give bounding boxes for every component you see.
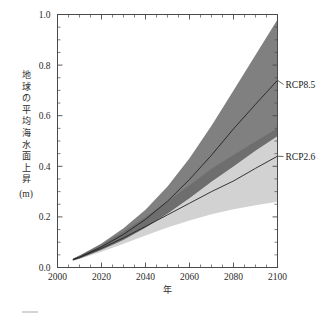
y-axis-title-char: 地 [22, 69, 31, 80]
y-axis-title-char: 水 [22, 139, 31, 150]
x-tick-label: 2080 [224, 272, 243, 282]
caption-rule [22, 311, 38, 313]
sea-level-rise-chart: 200020202040206020802100 0.00.20.40.60.8… [0, 0, 331, 316]
y-axis-title-char: 均 [22, 115, 31, 126]
y-tick-label: 0.4 [39, 162, 51, 172]
y-axis-unit: (m) [19, 189, 33, 200]
y-tick-label: 0.8 [39, 61, 51, 71]
y-axis-title-char: 上 [22, 163, 31, 173]
x-tick-label: 2020 [92, 272, 111, 282]
x-axis-title: 年 [163, 284, 172, 295]
y-axis-title-char: の [22, 93, 31, 103]
y-axis-title-char: 平 [22, 105, 31, 115]
x-tick-label: 2100 [268, 272, 287, 282]
y-axis-title-char: 昇 [22, 174, 31, 184]
y-tick-label: 1.0 [39, 10, 51, 20]
x-tick-label: 2000 [48, 272, 67, 282]
y-tick-label: 0.0 [39, 263, 51, 273]
y-axis-title-char: 球 [22, 81, 31, 92]
series-label-rcp26: RCP2.6 [286, 152, 316, 162]
y-axis-title-char: 面 [22, 151, 31, 161]
y-axis-title-char: 海 [22, 127, 31, 138]
y-tick-label: 0.6 [39, 111, 51, 121]
figure-container: 200020202040206020802100 0.00.20.40.60.8… [0, 0, 331, 316]
y-tick-label: 0.2 [39, 212, 51, 222]
x-tick-label: 2060 [180, 272, 199, 282]
caption-fragment [22, 308, 202, 316]
x-tick-label: 2040 [136, 272, 155, 282]
series-label-rcp85: RCP8.5 [286, 80, 316, 90]
